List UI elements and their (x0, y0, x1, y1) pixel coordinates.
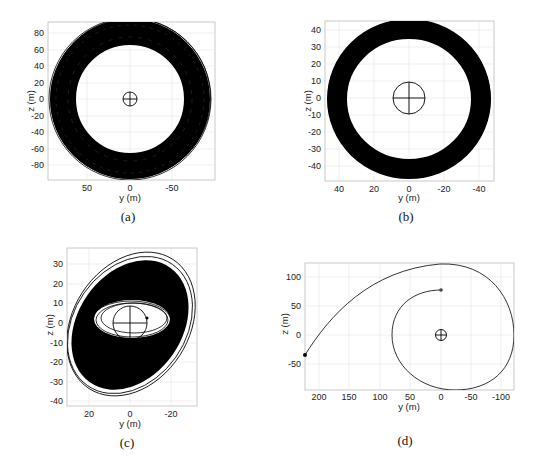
svg-text:0: 0 (58, 318, 63, 328)
svg-text:50: 50 (291, 301, 301, 311)
svg-text:20: 20 (311, 59, 321, 69)
xlabel-d: y (m) (398, 401, 420, 412)
svg-text:-30: -30 (50, 377, 63, 387)
xlabel-b: y (m) (398, 192, 420, 203)
svg-text:30: 30 (311, 42, 321, 52)
svg-text:-40: -40 (308, 161, 321, 171)
svg-text:10: 10 (311, 76, 321, 86)
caption-d: (d) (397, 433, 412, 448)
caption-b: (b) (398, 209, 413, 224)
panel-c: 30 20 10 0 -10 -20 -30 -40 20 0 -20 y (m… (40, 228, 221, 450)
svg-text:20: 20 (84, 409, 94, 419)
svg-text:-40: -40 (472, 184, 485, 194)
ylabel-c: z (m) (44, 314, 55, 336)
svg-text:-20: -20 (308, 127, 321, 137)
svg-text:0: 0 (39, 94, 44, 104)
target-marker-b (393, 82, 425, 114)
svg-text:60: 60 (34, 45, 44, 55)
svg-text:200: 200 (311, 392, 326, 402)
svg-text:-80: -80 (31, 160, 44, 170)
ylabel-a: z (m) (25, 90, 36, 112)
caption-a: (a) (121, 209, 135, 224)
svg-text:80: 80 (34, 28, 44, 38)
svg-text:-20: -20 (164, 409, 177, 419)
svg-text:20: 20 (369, 184, 379, 194)
svg-text:-50: -50 (288, 359, 301, 369)
svg-text:0: 0 (316, 93, 321, 103)
svg-text:0: 0 (438, 392, 443, 402)
svg-text:-30: -30 (308, 144, 321, 154)
svg-text:10: 10 (53, 298, 63, 308)
svg-text:50: 50 (82, 183, 92, 193)
svg-text:150: 150 (341, 392, 356, 402)
svg-text:40: 40 (311, 25, 321, 35)
svg-text:-50: -50 (464, 392, 477, 402)
svg-text:40: 40 (334, 184, 344, 194)
svg-text:100: 100 (372, 392, 387, 402)
target-marker-d (436, 330, 447, 341)
svg-text:30: 30 (53, 259, 63, 269)
svg-text:20: 20 (34, 78, 44, 88)
svg-text:0: 0 (296, 330, 301, 340)
xlabel-a: y (m) (119, 192, 141, 203)
svg-text:-40: -40 (31, 127, 44, 137)
end-point-d (439, 288, 443, 292)
svg-text:-20: -20 (50, 357, 63, 367)
ylabel-d: z (m) (279, 313, 290, 335)
panel-a: 80 60 40 20 0 -20 -40 -60 -80 50 0 -50 y… (25, 18, 215, 224)
svg-text:-40: -40 (50, 396, 63, 406)
xlabel-c: y (m) (119, 418, 141, 429)
target-marker-c (113, 306, 147, 340)
svg-text:-100: -100 (492, 392, 510, 402)
ylabel-b: z (m) (302, 90, 313, 112)
svg-text:20: 20 (53, 279, 63, 289)
figure: 80 60 40 20 0 -20 -40 -60 -80 50 0 -50 y… (0, 0, 540, 468)
svg-text:40: 40 (34, 61, 44, 71)
caption-c: (c) (120, 435, 134, 450)
svg-text:-60: -60 (31, 144, 44, 154)
svg-text:-10: -10 (50, 338, 63, 348)
svg-text:-50: -50 (165, 183, 178, 193)
end-point-c (146, 317, 149, 320)
panel-b: 40 30 20 10 0 -10 -20 -30 -40 40 20 0 -2… (302, 21, 494, 225)
panel-d: 100 50 0 -50 200 150 100 50 0 -50 -100 y… (279, 263, 514, 448)
svg-text:100: 100 (286, 272, 301, 282)
start-point-d (303, 353, 307, 357)
target-marker-a (123, 92, 137, 106)
svg-text:-20: -20 (437, 184, 450, 194)
